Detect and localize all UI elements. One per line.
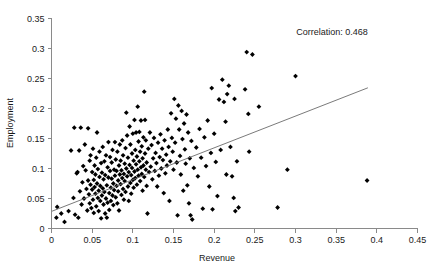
y-axis-tick-label: 0 xyxy=(39,224,44,234)
y-axis-tick-label: 0.2 xyxy=(32,104,45,114)
x-axis-tick-label: 0.35 xyxy=(327,235,345,245)
x-axis-tick-label: 0.4 xyxy=(371,235,384,245)
x-axis-tick-label: 0.2 xyxy=(208,235,221,245)
scatter-chart-screenshot: 00.050.10.150.20.250.30.350.40.45 00.050… xyxy=(0,0,434,269)
annotation-group: Correlation: 0.468 xyxy=(296,27,368,37)
y-axis-tick-label: 0.25 xyxy=(27,74,45,84)
x-axis-tick-label: 0.1 xyxy=(127,235,140,245)
y-axis-tick-label: 0.05 xyxy=(27,194,45,204)
y-axis-tick-label: 0.15 xyxy=(27,134,45,144)
x-axis-tick-label: 0.15 xyxy=(165,235,183,245)
x-axis-tick-label: 0.25 xyxy=(246,235,264,245)
y-axis-title: Employment xyxy=(5,97,15,148)
correlation-annotation: Correlation: 0.468 xyxy=(296,27,368,37)
x-axis-tick-label: 0.3 xyxy=(289,235,302,245)
x-axis-tick-label: 0.45 xyxy=(409,235,427,245)
scatter-plot: 00.050.10.150.20.250.30.350.40.45 00.050… xyxy=(0,0,434,269)
y-axis-tick-label: 0.1 xyxy=(32,164,45,174)
x-axis-tick-label: 0.05 xyxy=(83,235,101,245)
x-axis-title: Revenue xyxy=(199,253,235,263)
y-axis-tick-label: 0.35 xyxy=(27,14,45,24)
x-axis-tick-label: 0 xyxy=(49,235,54,245)
y-axis-tick-label: 0.3 xyxy=(32,44,45,54)
